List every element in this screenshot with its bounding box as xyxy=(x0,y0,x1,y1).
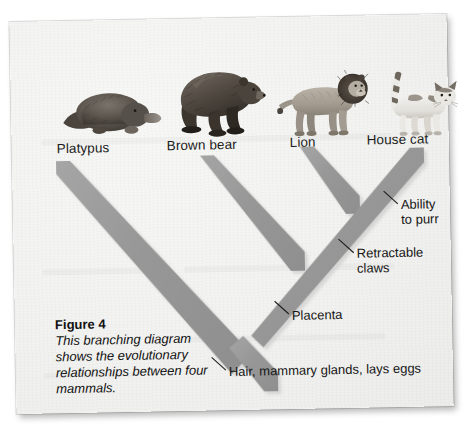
tip-label-house-cat: House cat xyxy=(367,131,429,147)
tip-label-brown-bear: Brown bear xyxy=(167,137,237,153)
trait-label-ability-to-purr: Ability to purr xyxy=(401,196,439,227)
trait-label-placenta: Placenta xyxy=(292,307,343,323)
trait-line-1: Retractable xyxy=(357,244,424,261)
branch-brown-bear xyxy=(200,154,305,273)
tip-label-platypus: Platypus xyxy=(57,140,110,156)
trait-line-1: Ability xyxy=(401,196,439,212)
scanned-page: Platypus Brown bear Lion House cat Abili… xyxy=(9,14,453,414)
brown-bear-illustration xyxy=(170,59,267,139)
trait-line-2: claws xyxy=(357,260,424,277)
trait-line-1: Placenta xyxy=(292,307,343,323)
tip-label-lion: Lion xyxy=(290,134,316,149)
lion-illustration xyxy=(276,67,369,139)
platypus-illustration xyxy=(59,81,164,141)
trait-label-retractable-claws: Retractable claws xyxy=(357,244,424,276)
figure-scene: Platypus Brown bear Lion House cat Abili… xyxy=(0,0,470,431)
house-cat-illustration xyxy=(378,62,459,139)
figure-caption-text: This branching diagram shows the evoluti… xyxy=(55,330,231,397)
figure-caption: Figure 4 This branching diagram shows th… xyxy=(55,314,231,397)
trait-line-2: to purr xyxy=(401,212,439,228)
branch-lion xyxy=(300,146,360,215)
